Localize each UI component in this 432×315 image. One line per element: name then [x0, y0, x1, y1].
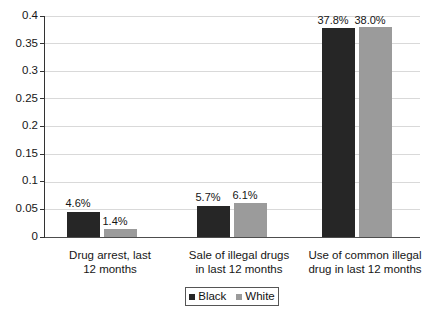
bar-chart: 0.4 0.35 0.3 0.25 0.2 0.15 0.1 0.05 0 4.… [0, 0, 432, 315]
value-label-white-sale-illegal-drugs: 6.1% [220, 190, 270, 201]
chart-legend: Black White [185, 287, 279, 306]
category-label-use-common-illegal-drug-line2: drug in last 12 months [300, 262, 430, 276]
legend-swatch-black-icon [189, 294, 195, 300]
legend-item-white[interactable]: White [236, 291, 274, 303]
category-label-drug-arrest-line2: 12 months [50, 262, 170, 276]
bar-white-use-common-illegal-drug[interactable] [359, 27, 392, 237]
category-label-drug-arrest-line1: Drug arrest, last [50, 248, 170, 262]
legend-item-black[interactable]: Black [189, 291, 226, 303]
y-axis-label-0.2: 0.2 [0, 120, 38, 131]
y-axis-label-0.15: 0.15 [0, 148, 38, 159]
legend-label-black: Black [198, 291, 226, 303]
legend-swatch-white-icon [236, 294, 242, 300]
bar-white-sale-illegal-drugs[interactable] [234, 203, 267, 237]
y-axis-label-0.3: 0.3 [0, 65, 38, 76]
y-axis-label-0.35: 0.35 [0, 38, 38, 49]
bar-black-sale-illegal-drugs[interactable] [197, 206, 230, 238]
bar-black-use-common-illegal-drug[interactable] [322, 28, 355, 237]
legend-label-white: White [245, 291, 274, 303]
bar-white-drug-arrest[interactable] [104, 229, 137, 237]
x-axis-baseline [45, 237, 420, 238]
y-axis-label-0.25: 0.25 [0, 93, 38, 104]
category-label-sale-illegal-drugs-line2: in last 12 months [175, 262, 303, 276]
y-axis-label-0.1: 0.1 [0, 175, 38, 186]
y-axis-label-0: 0 [0, 231, 38, 242]
value-label-white-drug-arrest: 1.4% [90, 216, 140, 227]
y-axis-label-0.05: 0.05 [0, 203, 38, 214]
category-label-use-common-illegal-drug-line1: Use of common illegal [300, 248, 430, 262]
y-axis-label-0.4: 0.4 [0, 10, 38, 21]
category-label-sale-illegal-drugs-line1: Sale of illegal drugs [175, 248, 303, 262]
value-label-white-use-common-illegal-drug: 38.0% [345, 15, 395, 26]
value-label-black-drug-arrest: 4.6% [53, 198, 103, 209]
